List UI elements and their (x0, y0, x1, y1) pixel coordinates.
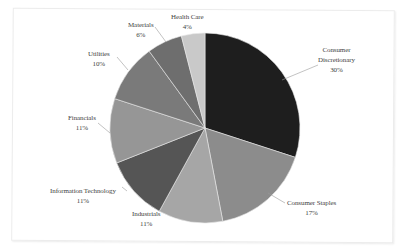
leader-line-information-technology (122, 187, 127, 191)
label-consumer-staples: Consumer Staples 17% (287, 198, 336, 218)
label-health-care: Health Care 4% (171, 12, 204, 32)
label-information-technology: Information Technology 11% (50, 186, 116, 206)
leader-line-utilities (117, 57, 128, 70)
leader-line-financials (98, 123, 110, 133)
label-financials: Financials 11% (68, 113, 96, 133)
leader-line-materials (155, 27, 166, 42)
label-materials: Materials 6% (128, 20, 154, 40)
label-industrials: Industrials 11% (132, 209, 160, 229)
leader-line-consumer-staples (268, 193, 285, 203)
leader-line-consumer-discretionary (282, 65, 318, 80)
pie-chart (0, 0, 405, 250)
label-utilities: Utilities 10% (88, 49, 110, 69)
label-consumer-discretionary: Consumer Discretionary 30% (318, 45, 355, 75)
